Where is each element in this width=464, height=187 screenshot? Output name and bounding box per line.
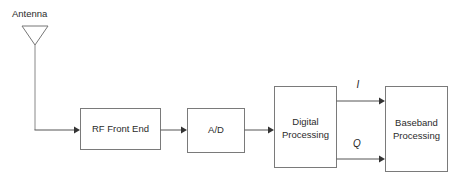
arrowhead-antenna-to-rf-icon xyxy=(74,127,80,134)
block-rf-front-end-label: RF Front End xyxy=(92,123,149,134)
block-baseband-processing-label-line1: Baseband xyxy=(395,117,438,128)
block-ad-converter-label: A/D xyxy=(208,124,224,135)
diagram-canvas: Antenna RF Front End A/D Digital Process… xyxy=(0,0,464,187)
block-digital-processing-label-line1: Digital xyxy=(292,116,318,127)
antenna-label: Antenna xyxy=(12,8,48,19)
arrowhead-ad-to-digital-icon xyxy=(268,127,274,134)
block-digital-processing[interactable] xyxy=(275,87,337,168)
arrowhead-rf-to-ad-icon xyxy=(181,127,187,134)
arrowhead-q-signal-icon xyxy=(379,156,385,163)
rf-receiver-block-diagram: Antenna RF Front End A/D Digital Process… xyxy=(0,0,464,187)
block-baseband-processing-label-line2: Processing xyxy=(393,130,440,141)
signal-label-q: Q xyxy=(353,138,361,149)
arrowhead-i-signal-icon xyxy=(379,98,385,105)
antenna-triangle-icon xyxy=(22,26,48,45)
signal-label-i: I xyxy=(357,79,360,90)
block-digital-processing-label-line2: Processing xyxy=(282,129,329,140)
